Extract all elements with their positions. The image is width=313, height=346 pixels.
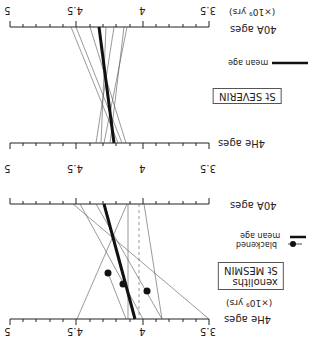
tick-label: 4.5 (67, 5, 83, 16)
tick-label: 5 (4, 163, 10, 174)
blackened-dot (144, 288, 151, 295)
tick-label: 5 (4, 326, 10, 337)
tick-label: 4.5 (67, 163, 83, 174)
tick-label: 3.5 (200, 326, 216, 337)
tick-label: 3.5 (200, 5, 216, 16)
tick-label: 3.5 (200, 163, 216, 174)
top-axis-unit: (×10⁹ yrs) (229, 7, 275, 17)
tick-label: 4 (139, 326, 145, 337)
legend-mean-age: mean age (240, 231, 280, 240)
bottom-axis-label: 4He ages (218, 138, 265, 149)
top-axis-label: 40A ages (230, 200, 277, 211)
tick-label: 4 (139, 163, 145, 174)
mean-age-line-severin (99, 27, 114, 143)
legend-mean-age: mean age (228, 58, 268, 67)
panel-title-mesmin: xenolithsSt MESMIN (218, 262, 284, 290)
tick-label: 4.5 (67, 326, 83, 337)
tick-label: 4 (139, 5, 145, 16)
top-axis-label: 40A ages (230, 24, 277, 35)
bottom-axis-label: 4He ages (224, 314, 271, 325)
blackened-dot (120, 281, 127, 288)
legend-blackened: blackened (236, 240, 277, 249)
tick-label: 5 (4, 5, 10, 16)
blackened-dot (105, 270, 112, 277)
panel-title-severin: St SEVERIN (213, 88, 282, 104)
figure-rendering (0, 0, 313, 346)
bottom-axis-unit: (×10⁹ yrs) (226, 298, 272, 308)
